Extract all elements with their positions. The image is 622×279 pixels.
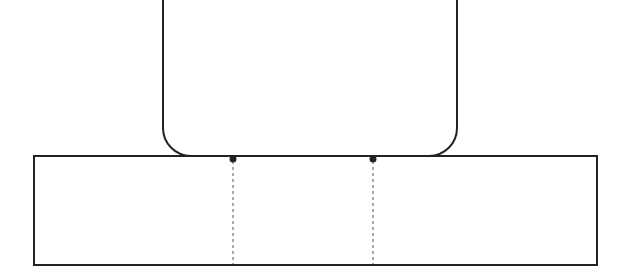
base-rectangle: [34, 156, 597, 265]
contact-point-1: [230, 156, 237, 163]
contact-point-2: [370, 156, 377, 163]
diagram-canvas: [0, 0, 622, 279]
upper-rounded-rectangle: [163, 0, 457, 156]
dashed-lines: [233, 161, 373, 264]
